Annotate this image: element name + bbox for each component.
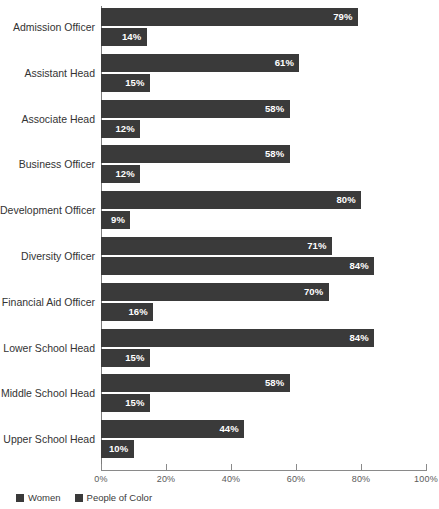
x-tick-mark [101, 464, 102, 471]
x-tick-label: 20% [157, 474, 176, 484]
bar-value-label: 58% [265, 100, 285, 118]
x-tick-label: 100% [414, 474, 438, 484]
bar[interactable]: 79% [101, 8, 358, 26]
bar-group: Upper School Head44%10% [0, 420, 439, 458]
bar-row: 58% [101, 145, 426, 163]
bar-group: Associate Head58%12% [0, 100, 439, 138]
bar[interactable]: 14% [101, 28, 147, 46]
bar-row: 58% [101, 374, 426, 392]
bar[interactable]: 84% [101, 329, 374, 347]
bar[interactable]: 71% [101, 237, 332, 255]
x-tick-label: 60% [287, 474, 306, 484]
bar-value-label: 10% [109, 440, 129, 458]
bar-value-label: 12% [115, 165, 135, 183]
bar-row: 10% [101, 440, 426, 458]
bar[interactable]: 12% [101, 120, 140, 138]
bar-value-label: 71% [307, 237, 327, 255]
category-label: Lower School Head [0, 342, 95, 354]
category-label: Middle School Head [0, 387, 95, 399]
bar-value-label: 58% [265, 374, 285, 392]
bar-row: 15% [101, 74, 426, 92]
legend-swatch-icon [75, 494, 83, 502]
bar-value-label: 15% [125, 349, 145, 367]
bar[interactable]: 10% [101, 440, 134, 458]
legend: WomenPeople of Color [16, 492, 152, 503]
x-tick-mark [231, 464, 232, 471]
x-tick-mark [426, 464, 427, 471]
bar[interactable]: 70% [101, 283, 329, 301]
category-label: Upper School Head [0, 433, 95, 445]
x-tick-label: 40% [222, 474, 241, 484]
x-tick-mark [296, 464, 297, 471]
bar[interactable]: 12% [101, 165, 140, 183]
bar-row: 61% [101, 54, 426, 72]
bar-row: 12% [101, 165, 426, 183]
bar-value-label: 79% [333, 8, 353, 26]
bar-row: 9% [101, 211, 426, 229]
bar[interactable]: 84% [101, 257, 374, 275]
x-tick-mark [361, 464, 362, 471]
bar-row: 15% [101, 349, 426, 367]
bar[interactable]: 15% [101, 394, 150, 412]
bar-row: 12% [101, 120, 426, 138]
bar[interactable]: 58% [101, 145, 290, 163]
legend-item[interactable]: People of Color [75, 492, 152, 503]
x-axis-line [101, 470, 427, 471]
legend-label: People of Color [87, 492, 152, 503]
category-label: Admission Officer [0, 21, 95, 33]
bar-value-label: 61% [275, 54, 295, 72]
legend-swatch-icon [16, 494, 24, 502]
bar-group: Development Officer80%9% [0, 191, 439, 229]
category-label: Development Officer [0, 204, 95, 216]
bar-value-label: 84% [349, 257, 369, 275]
bar-value-label: 44% [219, 420, 239, 438]
bar-group: Business Officer58%12% [0, 145, 439, 183]
bar[interactable]: 15% [101, 74, 150, 92]
bar-value-label: 84% [349, 329, 369, 347]
bar-value-label: 80% [336, 191, 356, 209]
legend-label: Women [28, 492, 61, 503]
category-label: Business Officer [0, 158, 95, 170]
bar-group: Financial Aid Officer70%16% [0, 283, 439, 321]
bar-row: 14% [101, 28, 426, 46]
bar[interactable]: 44% [101, 420, 244, 438]
bar[interactable]: 58% [101, 100, 290, 118]
bar-value-label: 70% [304, 283, 324, 301]
bar-group: Middle School Head58%15% [0, 374, 439, 412]
bar-row: 58% [101, 100, 426, 118]
category-label: Assistant Head [0, 67, 95, 79]
bar-row: 44% [101, 420, 426, 438]
bar[interactable]: 58% [101, 374, 290, 392]
bar-row: 84% [101, 329, 426, 347]
bar-value-label: 12% [115, 120, 135, 138]
bar-group: Admission Officer79%14% [0, 8, 439, 46]
bar[interactable]: 16% [101, 303, 153, 321]
category-label: Diversity Officer [0, 250, 95, 262]
bar[interactable]: 9% [101, 211, 130, 229]
legend-item[interactable]: Women [16, 492, 61, 503]
bar[interactable]: 61% [101, 54, 299, 72]
x-tick-label: 80% [352, 474, 371, 484]
bar-value-label: 9% [111, 211, 125, 229]
bar[interactable]: 80% [101, 191, 361, 209]
bar-value-label: 15% [125, 394, 145, 412]
bar-value-label: 16% [128, 303, 148, 321]
bar-row: 71% [101, 237, 426, 255]
bar-row: 15% [101, 394, 426, 412]
bar-value-label: 58% [265, 145, 285, 163]
bar-row: 70% [101, 283, 426, 301]
bar-row: 84% [101, 257, 426, 275]
bar-value-label: 14% [122, 28, 142, 46]
bar-row: 79% [101, 8, 426, 26]
bar-value-label: 15% [125, 74, 145, 92]
bar-group: Lower School Head84%15% [0, 329, 439, 367]
bar-group: Diversity Officer71%84% [0, 237, 439, 275]
x-tick-mark [166, 464, 167, 471]
bar-group: Assistant Head61%15% [0, 54, 439, 92]
category-label: Associate Head [0, 113, 95, 125]
bar-row: 16% [101, 303, 426, 321]
category-label: Financial Aid Officer [0, 296, 95, 308]
bar[interactable]: 15% [101, 349, 150, 367]
x-tick-label: 0% [94, 474, 107, 484]
bar-chart: 0%20%40%60%80%100% Admission Officer79%1… [0, 0, 439, 509]
